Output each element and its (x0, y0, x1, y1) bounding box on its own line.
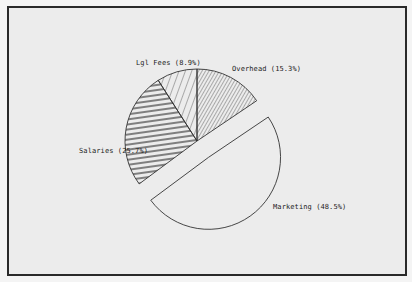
label-lgl-fees: Lgl Fees (8.9%) (136, 59, 201, 67)
label-salaries: Salaries (25.7%) (79, 147, 148, 155)
label-overhead: Overhead (15.3%) (232, 65, 301, 73)
pie-slice-overhead (197, 69, 257, 141)
pie-chart (0, 0, 412, 282)
label-marketing: Marketing (48.5%) (273, 203, 346, 211)
